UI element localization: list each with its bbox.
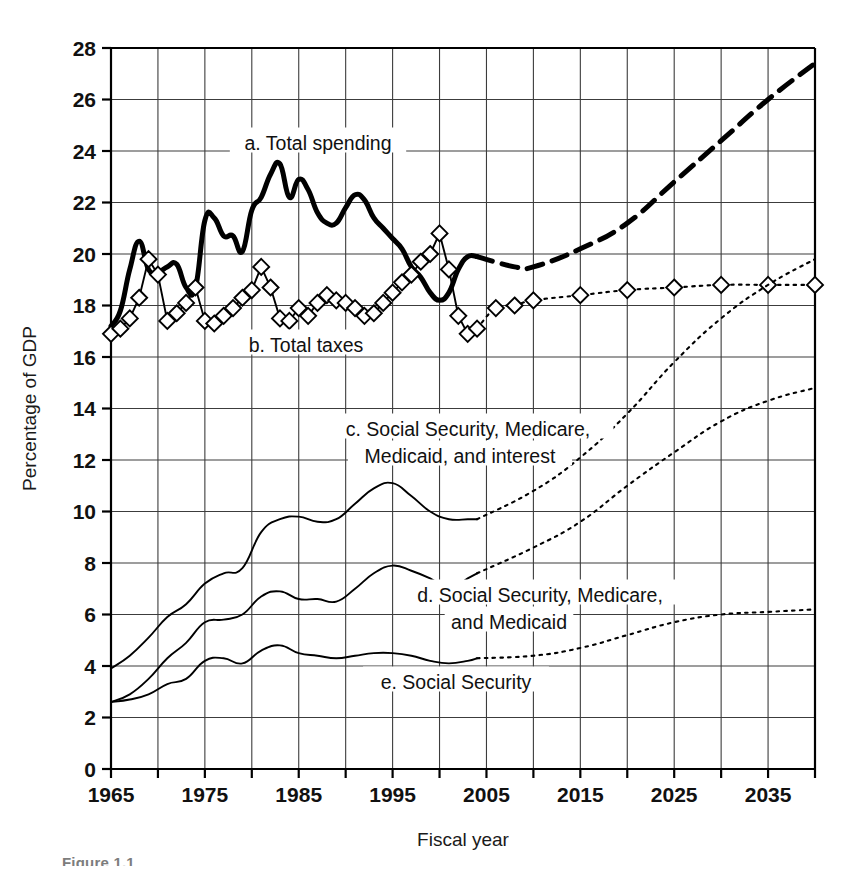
label-ss-medicare-medicaid-line2: and Medicaid <box>451 611 567 633</box>
y-tick-label: 8 <box>84 552 96 575</box>
label-ss-medicare-medicaid-interest-line2: Medicaid, and interest <box>365 445 556 467</box>
label-total-taxes: b. Total taxes <box>249 334 364 356</box>
x-tick-label: 1975 <box>182 783 229 806</box>
y-tick-label: 20 <box>73 243 96 266</box>
data-point-marker <box>666 279 682 295</box>
y-tick-label: 6 <box>84 603 96 626</box>
x-tick-label: 2035 <box>745 783 792 806</box>
data-point-marker <box>432 225 448 241</box>
label-social-security: e. Social Security <box>381 671 532 693</box>
series-total_taxes-projected <box>477 285 815 329</box>
y-tick-label: 18 <box>73 294 97 317</box>
data-point-marker <box>807 277 823 293</box>
y-axis-title: Percentage of GDP <box>19 326 40 491</box>
y-tick-label: 26 <box>73 88 96 111</box>
data-point-marker <box>619 282 635 298</box>
y-tick-label: 16 <box>73 346 96 369</box>
figure-container: 0246810121416182022242628196519751985199… <box>0 0 857 876</box>
y-tick-label: 24 <box>73 140 97 163</box>
data-point-marker <box>253 259 269 275</box>
gdp-spending-chart: 0246810121416182022242628196519751985199… <box>0 0 857 876</box>
y-tick-label: 10 <box>73 500 96 523</box>
x-tick-label: 1985 <box>275 783 322 806</box>
series-total_spending <box>111 63 815 326</box>
x-tick-label: 1995 <box>369 783 416 806</box>
data-point-marker <box>450 308 466 324</box>
data-point-marker <box>572 287 588 303</box>
x-tick-label: 2015 <box>557 783 604 806</box>
y-tick-label: 14 <box>73 397 97 420</box>
x-tick-label: 2025 <box>651 783 698 806</box>
label-total-spending: a. Total spending <box>244 132 391 154</box>
data-point-marker <box>131 290 147 306</box>
x-tick-label: 1965 <box>88 783 135 806</box>
y-tick-label: 4 <box>84 655 96 678</box>
data-point-marker <box>263 279 279 295</box>
label-ss-medicare-medicaid-interest-line1: c. Social Security, Medicare, <box>346 418 591 440</box>
data-series-group <box>103 63 823 702</box>
series-total_taxes <box>103 225 823 341</box>
data-point-marker <box>507 298 523 314</box>
x-axis-title: Fiscal year <box>417 829 510 850</box>
y-tick-label: 28 <box>73 37 97 60</box>
series-annotations: a. Total spendingb. Total taxesc. Social… <box>230 128 686 694</box>
y-tick-label: 12 <box>73 449 96 472</box>
label-ss-medicare-medicaid-line1: d. Social Security, Medicare, <box>417 584 663 606</box>
y-tick-label: 2 <box>84 706 96 729</box>
series-total_spending-projected <box>477 63 815 269</box>
y-tick-label: 22 <box>73 191 96 214</box>
figure-caption: Figure 1.1 <box>62 852 135 866</box>
y-tick-label: 0 <box>84 758 96 781</box>
data-point-marker <box>488 300 504 316</box>
x-tick-label: 2005 <box>463 783 510 806</box>
data-point-marker <box>713 277 729 293</box>
series-total_spending-historical <box>111 162 477 326</box>
